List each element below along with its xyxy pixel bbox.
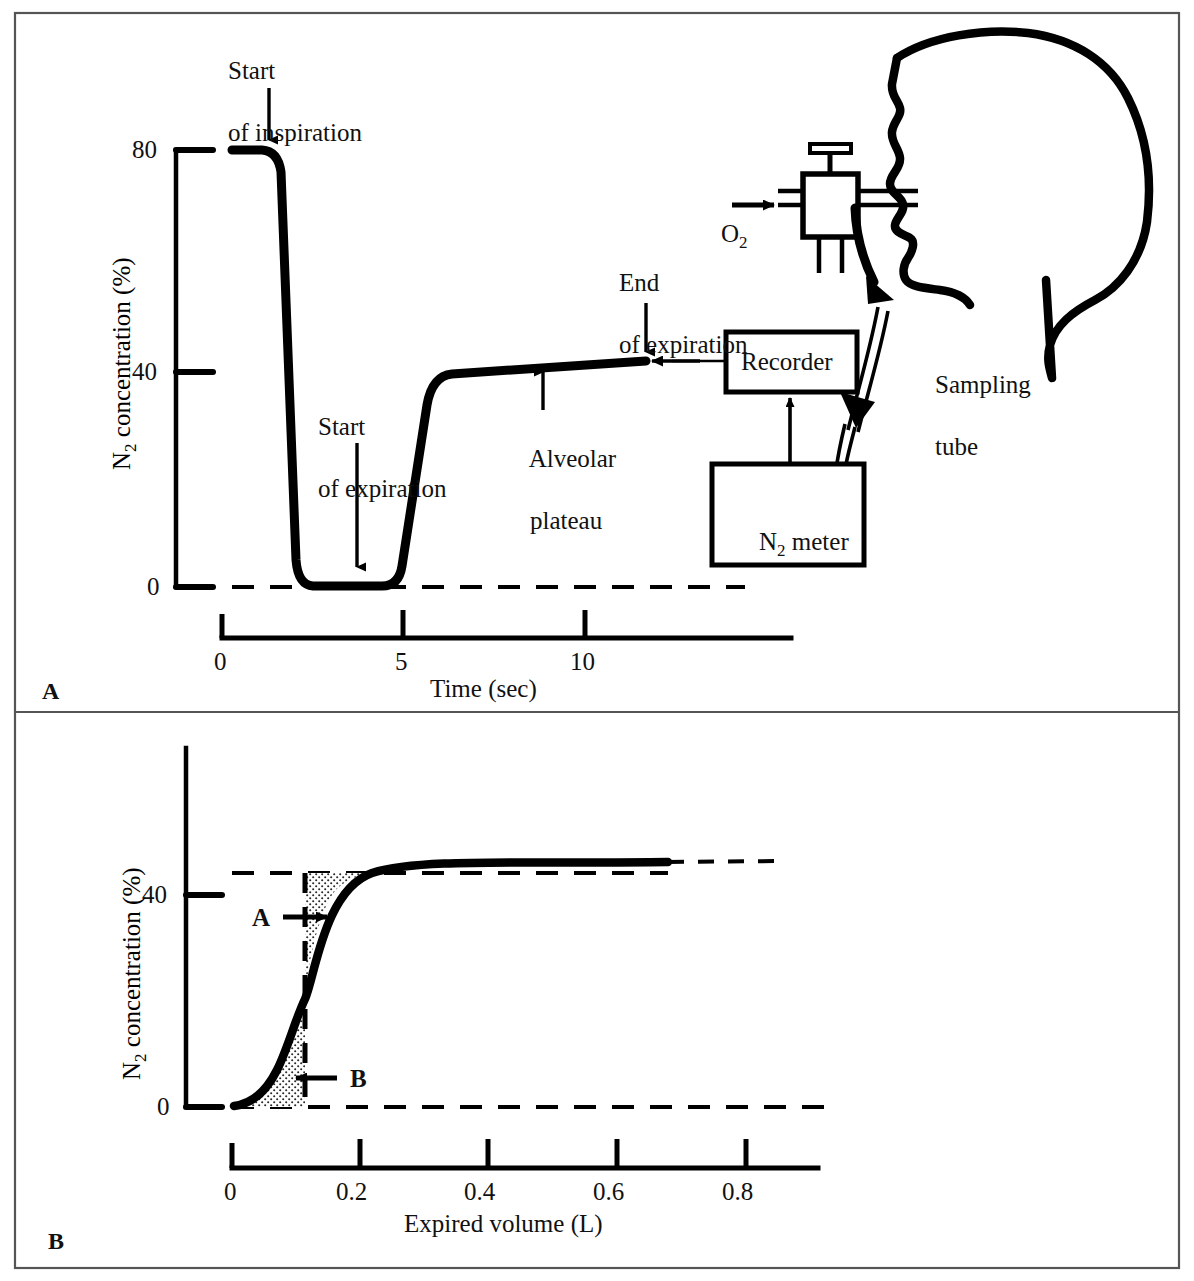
panel-a-y-axis-title: N2 concentration (%) bbox=[108, 257, 141, 470]
sampling-flow-arrow bbox=[855, 208, 874, 282]
figure-canvas bbox=[0, 0, 1194, 1281]
recorder-box-label: Recorder bbox=[741, 348, 833, 376]
sampling-flow-arrowhead bbox=[866, 276, 894, 304]
panel-b-y-axis-subscript: 2 bbox=[131, 1053, 150, 1062]
panel-a-letter: A bbox=[42, 678, 59, 705]
panel-a-y-axis-subscript: 2 bbox=[121, 443, 140, 452]
panel-b-curve-dashed-extension bbox=[668, 861, 788, 862]
panel-b-plot bbox=[186, 748, 838, 1168]
valve-handle bbox=[810, 144, 851, 153]
facial-profile-front bbox=[890, 58, 970, 305]
panel-b-y-axis-title: N2 concentration (%) bbox=[118, 867, 151, 1080]
n2-meter-box-label: N2 meter bbox=[734, 500, 849, 589]
panel-b-xlabel-02: 0.2 bbox=[336, 1178, 367, 1206]
panel-b-xlabel-08: 0.8 bbox=[722, 1178, 753, 1206]
panel-a-ylabel-0: 0 bbox=[147, 573, 160, 601]
panel-b-xlabel-0: 0 bbox=[224, 1178, 237, 1206]
panel-a-y-axis bbox=[176, 150, 213, 587]
panel-b-letter: B bbox=[48, 1228, 64, 1255]
panel-b-xlabel-06: 0.6 bbox=[593, 1178, 624, 1206]
panel-b-x-axis-title: Expired volume (L) bbox=[404, 1210, 603, 1238]
panel-a-ylabel-80: 80 bbox=[132, 136, 157, 164]
panel-a-xlabel-10: 10 bbox=[570, 648, 595, 676]
panel-b-x-axis bbox=[232, 1139, 818, 1168]
panel-b-xlabel-04: 0.4 bbox=[464, 1178, 495, 1206]
panel-a-xlabel-5: 5 bbox=[395, 648, 408, 676]
start-of-inspiration-label: Start of inspiration bbox=[203, 24, 362, 179]
start-of-expiration-label: Start of expiration bbox=[293, 380, 446, 535]
sampling-tube-arrowhead bbox=[840, 392, 875, 428]
alveolar-plateau-label: Alveolar plateau bbox=[505, 412, 616, 567]
panel-a-x-axis-title: Time (sec) bbox=[430, 675, 537, 703]
sampling-tube-label: Sampling tube bbox=[910, 338, 1031, 493]
head-profile-outline bbox=[897, 32, 1149, 378]
oxygen-inlet-label: O2 bbox=[696, 192, 748, 281]
panel-b-ylabel-0: 0 bbox=[157, 1093, 170, 1121]
figure-root: Start of inspiration Start of expiration… bbox=[0, 0, 1194, 1281]
valve-body bbox=[803, 174, 858, 237]
region-a-label: A bbox=[252, 902, 270, 933]
panel-a-xlabel-0: 0 bbox=[214, 648, 227, 676]
panel-a-x-axis bbox=[222, 610, 791, 638]
region-b-label: B bbox=[350, 1063, 367, 1094]
panel-b-y-axis bbox=[186, 748, 222, 1107]
